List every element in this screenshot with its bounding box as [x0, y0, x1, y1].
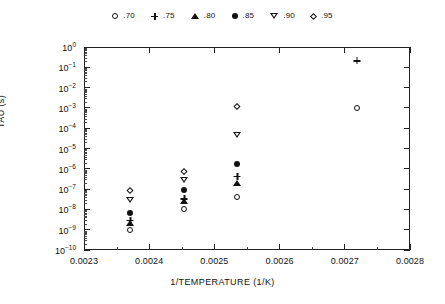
circle-open-marker-icon: [354, 105, 360, 111]
y-tick-minor: [84, 197, 87, 198]
y-tick: [84, 250, 90, 251]
legend-item-p85[interactable]: .85: [232, 12, 255, 20]
y-tick-minor: [84, 240, 87, 241]
x-tick-top: [344, 47, 345, 53]
y-tick-minor: [84, 238, 87, 239]
y-tick-minor: [84, 73, 87, 74]
y-tick-label: 10−9: [30, 225, 76, 236]
triangle-up-filled-marker-icon: [126, 220, 134, 226]
data-point: [234, 153, 240, 171]
triangle-up-filled-marker-icon: [180, 198, 188, 204]
y-tick-minor: [84, 89, 87, 90]
x-tick: [279, 244, 280, 250]
data-point: [182, 160, 187, 178]
plot-data-area: [84, 47, 410, 250]
y-tick-minor: [84, 173, 87, 174]
x-tick-minor: [312, 247, 313, 250]
legend-item-p70[interactable]: .70: [112, 12, 135, 20]
x-tick-minor: [377, 247, 378, 250]
y-tick-right: [404, 229, 410, 230]
plus-marker-icon: [353, 57, 360, 64]
diamond-open-marker-icon: [181, 168, 188, 175]
x-tick-top: [279, 47, 280, 53]
y-tick-minor: [84, 130, 87, 131]
x-tick-top: [149, 47, 150, 53]
y-tick-minor: [84, 136, 87, 137]
triangle-down-open-marker-icon: [180, 177, 188, 183]
y-tick-minor: [84, 220, 87, 221]
circle-filled-marker-icon: [127, 210, 133, 216]
legend-item-p80[interactable]: .80: [191, 12, 216, 20]
y-tick-label: 10−8: [30, 204, 76, 215]
y-tick-minor: [84, 131, 87, 132]
y-tick-minor: [84, 109, 87, 110]
x-tick-label: 0.0027: [331, 256, 359, 266]
x-axis-title: 1/TEMPERATURE (1/K): [0, 277, 445, 287]
y-tick-minor: [84, 192, 87, 193]
x-tick: [410, 244, 411, 250]
y-tick-minor: [84, 217, 87, 218]
y-tick-minor: [84, 91, 87, 92]
x-tick-top: [84, 47, 85, 53]
y-tick-minor: [84, 177, 87, 178]
x-tick: [149, 244, 150, 250]
x-tick-top: [410, 47, 411, 53]
triangle-up-filled-marker-icon: [191, 13, 199, 19]
x-tick-label: 0.0028: [396, 256, 424, 266]
y-tick-right: [404, 107, 410, 108]
y-tick-right: [404, 189, 410, 190]
legend-label: .75: [163, 12, 175, 20]
y-tick-minor: [84, 53, 87, 54]
legend-item-p90[interactable]: .90: [270, 12, 295, 20]
chart-root: .70.75.80.85.90.95 10010−110−210−310−410…: [0, 0, 445, 304]
circle-open-marker-icon: [234, 194, 240, 200]
y-tick-minor: [84, 203, 87, 204]
y-tick-label: 10−6: [30, 164, 76, 175]
chart-legend: .70.75.80.85.90.95: [0, 12, 445, 20]
y-tick-minor: [84, 102, 87, 103]
y-tick-minor: [84, 90, 87, 91]
y-tick-minor: [84, 191, 87, 192]
y-tick-minor: [84, 70, 87, 71]
data-point: [233, 124, 241, 142]
legend-label: .80: [204, 12, 216, 20]
y-tick-minor: [84, 114, 87, 115]
y-tick-minor: [84, 159, 87, 160]
y-tick-label: 10−2: [30, 83, 76, 94]
y-tick-minor: [84, 175, 87, 176]
legend-item-p75[interactable]: .75: [151, 12, 175, 20]
y-tick-minor: [84, 200, 87, 201]
y-tick-minor: [84, 119, 87, 120]
y-tick-minor: [84, 152, 87, 153]
y-tick-label: 10−3: [30, 103, 76, 114]
legend-label: .70: [123, 12, 135, 20]
data-point: [235, 95, 240, 113]
y-tick-minor: [84, 98, 87, 99]
y-tick-minor: [84, 81, 87, 82]
triangle-down-open-marker-icon: [233, 132, 241, 138]
diamond-open-marker-icon: [310, 12, 317, 19]
y-tick-minor: [84, 213, 87, 214]
y-tick-minor: [84, 234, 87, 235]
y-axis-title: TAU (s): [0, 95, 6, 128]
data-point: [353, 50, 360, 68]
y-tick-minor: [84, 157, 87, 158]
y-tick-minor: [84, 92, 87, 93]
x-tick-label: 0.0023: [70, 256, 98, 266]
x-tick-label: 0.0024: [135, 256, 163, 266]
x-tick: [344, 244, 345, 250]
y-tick-minor: [84, 68, 87, 69]
triangle-down-open-marker-icon: [270, 13, 278, 19]
x-tick: [214, 244, 215, 250]
legend-label: .85: [243, 12, 255, 20]
x-tick: [84, 244, 85, 250]
y-tick-minor: [84, 139, 87, 140]
y-tick-right: [404, 87, 410, 88]
legend-item-p95[interactable]: .95: [311, 12, 333, 20]
circle-filled-marker-icon: [232, 13, 238, 19]
y-tick-minor: [84, 163, 87, 164]
y-tick-label: 10−10: [30, 245, 76, 256]
triangle-up-filled-marker-icon: [233, 180, 241, 186]
x-tick-top: [214, 47, 215, 53]
y-tick-minor: [84, 211, 87, 212]
